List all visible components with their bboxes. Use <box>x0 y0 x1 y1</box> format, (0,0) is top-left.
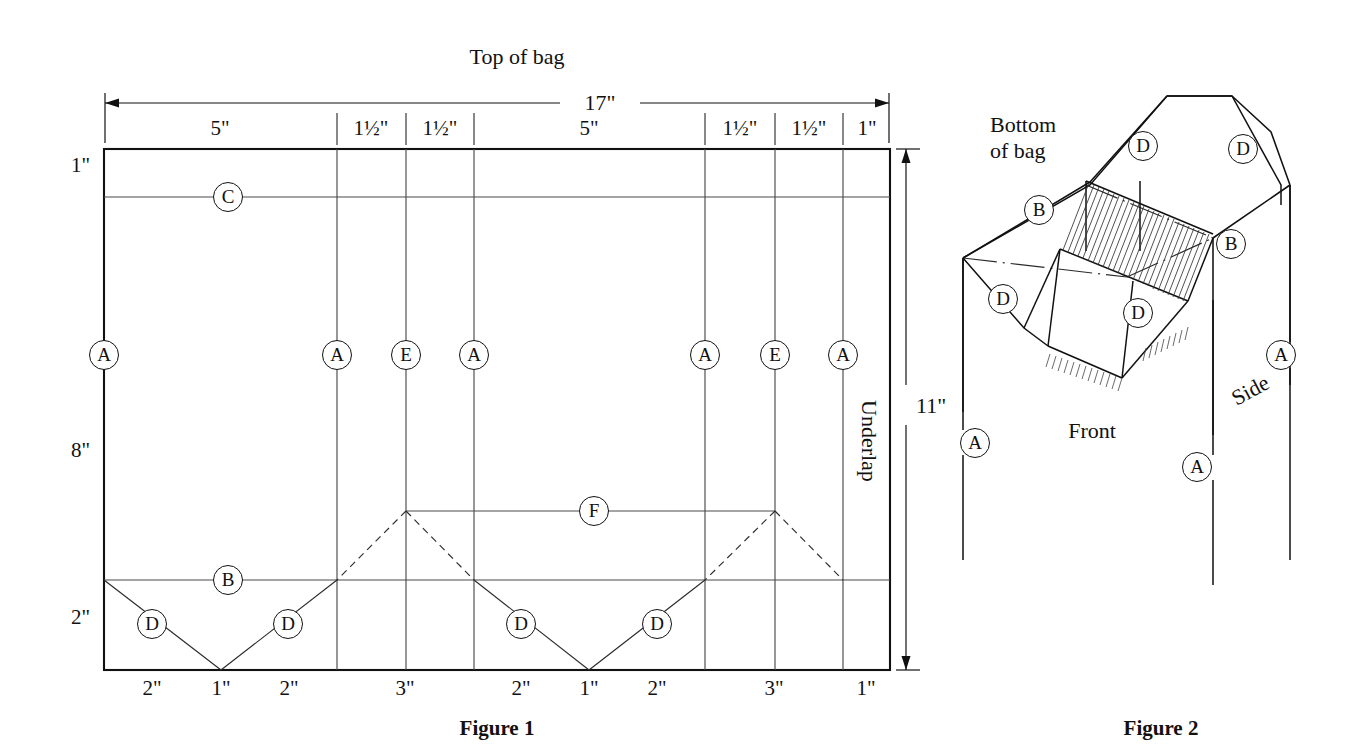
marker-d-fig1-12: D <box>506 609 536 639</box>
marker-letter: D <box>145 614 159 633</box>
marker-letter: D <box>1136 136 1150 155</box>
fig1-bottom-segment-label-2: 1" <box>211 678 230 699</box>
fig1-top-segment-label-6: 1½" <box>792 118 827 139</box>
marker-letter: C <box>222 187 235 206</box>
marker-letter: D <box>650 614 664 633</box>
fig1-bottom-segment-label-3: 2" <box>279 678 298 699</box>
marker-letter: F <box>589 501 600 520</box>
fig1-overall-height-label: 11" <box>916 395 946 417</box>
marker-f-fig1-8: F <box>579 496 609 526</box>
fig1-left-segment-label-1: 1" <box>71 155 90 176</box>
marker-c-fig1-0: C <box>213 182 243 212</box>
marker-letter: B <box>1225 234 1238 253</box>
fig1-top-segment-label-2: 1½" <box>354 118 389 139</box>
marker-b-fig2-2: B <box>1024 195 1054 225</box>
fig1-underlap-label: Underlap <box>858 400 880 482</box>
marker-letter: A <box>467 345 481 364</box>
marker-letter: A <box>836 345 850 364</box>
fig1-left-segment-label-3: 2" <box>71 607 90 628</box>
fig1-bottom-segment-label-4: 3" <box>395 678 414 699</box>
marker-a-fig1-5: A <box>690 340 720 370</box>
marker-letter: A <box>968 433 982 452</box>
fig1-top-segment-label-4: 5" <box>579 118 598 139</box>
fig2-caption: Figure 2 <box>1124 718 1199 739</box>
marker-b-fig2-3: B <box>1216 229 1246 259</box>
marker-letter: E <box>400 345 412 364</box>
fig1-vertical-creases <box>337 149 843 670</box>
fig1-top-of-bag-label: Top of bag <box>470 46 565 68</box>
fig2-bottom-of-bag-label-line1: Bottom <box>990 114 1056 136</box>
fig2-flap-shading <box>1046 327 1188 391</box>
marker-d-fig2-1: D <box>1228 134 1258 164</box>
fig1-bottom-segment-label-5: 2" <box>511 678 530 699</box>
fig1-top-segment-label-7: 1" <box>857 118 876 139</box>
fig1-top-segment-label-1: 5" <box>210 118 229 139</box>
fig1-fold-diagonals-solid <box>104 580 705 670</box>
marker-letter: A <box>330 345 344 364</box>
fig1-bottom-segment-label-8: 3" <box>764 678 783 699</box>
fig1-left-segment-label-2: 8" <box>71 440 90 461</box>
marker-d-fig2-0: D <box>1128 131 1158 161</box>
marker-letter: D <box>1131 303 1145 322</box>
marker-a-fig2-8: A <box>1182 452 1212 482</box>
fig2-trough-shading <box>1063 183 1209 301</box>
marker-a-fig1-1: A <box>89 340 119 370</box>
marker-b-fig1-9: B <box>213 565 243 595</box>
marker-a-fig2-6: A <box>1266 340 1296 370</box>
diagram-vector-layer <box>0 0 1368 756</box>
marker-letter: B <box>222 570 235 589</box>
marker-letter: D <box>514 614 528 633</box>
marker-letter: A <box>698 345 712 364</box>
fig2-trough <box>963 181 1213 378</box>
marker-a-fig2-7: A <box>960 428 990 458</box>
fig1-bottom-segment-label-6: 1" <box>579 678 598 699</box>
marker-letter: A <box>97 345 111 364</box>
fig2-bottom-of-bag-label-line2: of bag <box>990 140 1046 162</box>
marker-letter: D <box>1236 139 1250 158</box>
fig1-top-segment-label-3: 1½" <box>423 118 458 139</box>
marker-letter: D <box>996 289 1010 308</box>
marker-e-fig1-6: E <box>760 340 790 370</box>
marker-letter: E <box>769 345 781 364</box>
fig1-top-segment-label-5: 1½" <box>723 118 758 139</box>
marker-a-fig1-4: A <box>459 340 489 370</box>
fig2-front-label: Front <box>1068 420 1116 442</box>
marker-e-fig1-3: E <box>391 340 421 370</box>
marker-a-fig1-2: A <box>322 340 352 370</box>
fig1-bottom-segment-label-1: 2" <box>142 678 161 699</box>
fig1-caption: Figure 1 <box>460 718 535 739</box>
fig1-bottom-segment-label-9: 1" <box>856 678 875 699</box>
marker-d-fig1-11: D <box>273 609 303 639</box>
marker-letter: B <box>1033 200 1046 219</box>
marker-d-fig1-10: D <box>137 609 167 639</box>
fig1-overall-width-label: 17" <box>579 92 622 114</box>
marker-d-fig1-13: D <box>642 609 672 639</box>
diagram-sheet: Top of bag 17" 11" 5" 1½" 1½" 5" 1½" 1½"… <box>0 0 1368 756</box>
marker-letter: A <box>1190 457 1204 476</box>
marker-letter: A <box>1274 345 1288 364</box>
fig1-bottom-segment-label-7: 2" <box>647 678 666 699</box>
marker-d-fig2-4: D <box>988 284 1018 314</box>
marker-letter: D <box>281 614 295 633</box>
marker-a-fig1-7: A <box>828 340 858 370</box>
marker-d-fig2-5: D <box>1123 298 1153 328</box>
